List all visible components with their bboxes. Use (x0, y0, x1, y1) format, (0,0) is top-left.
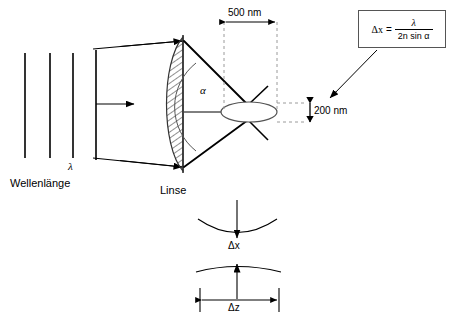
delta-z-label: Δz (228, 303, 240, 313)
formula-lhs: Δx (371, 24, 382, 35)
axial-dimension-label: 200 nm (314, 106, 347, 116)
lens-label: Linse (160, 185, 186, 196)
lateral-dimension-label: 500 nm (228, 8, 261, 18)
wavelength-label: Wellenlänge (10, 178, 70, 189)
focal-ellipse-icon (221, 102, 277, 122)
psf-curve-axial-icon (196, 264, 281, 299)
psf-curve-icon (198, 200, 277, 238)
delta-x-label: Δx (228, 241, 240, 251)
formula-fraction: λ 2n sin α (395, 17, 433, 41)
alpha-angle-label: α (200, 85, 206, 96)
resolution-formula: Δx = λ 2n sin α (371, 17, 432, 41)
formula-callout-box: Δx = λ 2n sin α (358, 10, 446, 48)
formula-numerator: λ (407, 17, 419, 29)
formula-equals: = (386, 24, 392, 35)
lambda-symbol-label: λ (68, 161, 73, 172)
formula-denominator: 2n sin α (395, 30, 433, 41)
callout-arrow-icon (330, 50, 377, 98)
figure-canvas: Wellenlänge λ Linse α 500 nm 200 nm Δx Δ… (0, 0, 450, 323)
wavefront-lines-icon (25, 50, 96, 160)
